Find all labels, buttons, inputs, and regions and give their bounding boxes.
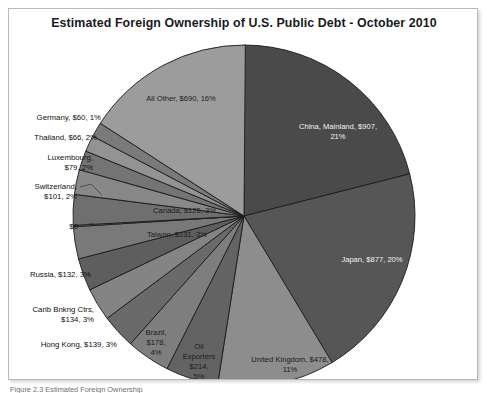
pie-slice-label-taiwan: Taiwan, $131, 3%	[147, 230, 207, 239]
pie-chart: All Other, $690, 16%China, Mainland, $90…	[8, 8, 478, 380]
pie-slice-label-luxembourg: Luxembourg,$79, 2%	[47, 153, 93, 172]
pie-slice-label-russia: Russia, $132, 3%	[30, 270, 91, 279]
pie-slice-label-japan: Japan, $877, 20%	[341, 255, 402, 264]
pie-slices-group	[73, 45, 415, 380]
pie-slice-label-canada: Canada, $125, 3%	[153, 206, 216, 215]
pie-slice-label-carib: Carib Bnkng Ctrs,$134, 3%	[32, 305, 94, 324]
figure-container: Estimated Foreign Ownership of U.S. Publ…	[0, 0, 489, 393]
pie-slice-label-germany: Germany, $60, 1%	[37, 113, 101, 122]
pie-slice-label-switzerland: Switzerland,$101, 2%	[35, 182, 78, 201]
pie-slice-label-thailand: Thailand, $66, 2%	[34, 133, 97, 142]
chart-frame: Estimated Foreign Ownership of U.S. Publ…	[8, 8, 478, 380]
pie-slice-label-all-other: All Other, $690, 16%	[146, 94, 216, 103]
figure-caption: Figure 2.3 Estimated Foreign Ownership	[10, 385, 410, 393]
pie-slice-label-hongkong: Hong Kong, $139, 3%	[41, 340, 117, 349]
pie-slice-label-zero: $0	[69, 222, 78, 231]
